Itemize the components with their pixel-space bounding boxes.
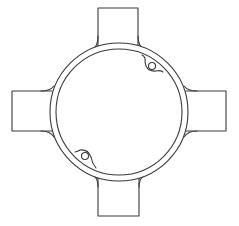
left-tab [12, 86, 54, 137]
right-tab [184, 86, 226, 137]
outer-ring [50, 43, 188, 181]
junction-box-diagram [0, 0, 239, 226]
